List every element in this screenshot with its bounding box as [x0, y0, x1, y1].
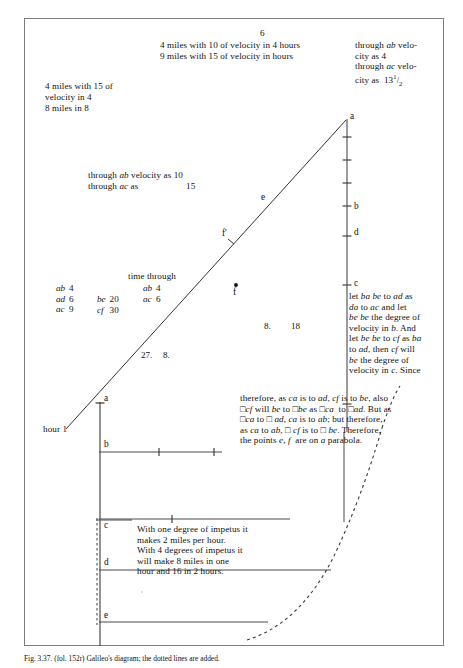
label-f-prime: f': [222, 229, 227, 239]
proof-line: let be be to cf as ba: [349, 333, 461, 344]
proof-line-text: □cf will be to □be as □ca to □ad. But as: [240, 404, 391, 414]
label-d-lower: d: [104, 558, 109, 568]
impetus-line-text: With one degree of impetus it: [137, 524, 248, 534]
number-27: 27.: [141, 350, 152, 361]
impetus-line: makes 2 miles per hour.: [137, 535, 337, 546]
table-row: ac 6: [143, 294, 163, 305]
proof-line-text: velocity in c. Since: [349, 365, 421, 375]
number-18: 18: [291, 321, 300, 332]
top-right-line-3: through ac velo-: [355, 61, 417, 72]
label-a-lower: a: [104, 394, 108, 404]
impetus-line: will make 8 miles in one: [137, 556, 337, 567]
proof-line: let ba be to ad as: [349, 291, 461, 302]
ml2-pre: through: [88, 181, 119, 191]
ml1-it: ab: [119, 170, 128, 180]
top-left-line-1: 4 miles with 15 of: [45, 81, 113, 92]
impetus-line-text: hour and 16 in 2 hours.: [137, 566, 224, 576]
impetus-line: hour and 16 in 2 hours.: [137, 566, 337, 577]
cell-value: 6: [69, 294, 76, 305]
label-c-lower: c: [104, 521, 108, 531]
label-c-right: c: [354, 279, 358, 289]
tr3-it: ac: [386, 61, 395, 71]
mid-left-line-1: through ab velocity as 10: [88, 170, 183, 181]
proof-line: to ad, then cf will: [349, 344, 461, 355]
proof-line-text: therefore, as ca is to ad, cf is to be, …: [240, 393, 388, 403]
table-row: ac 9: [56, 304, 76, 315]
impetus-line-text: With 4 degrees of impetus it: [137, 545, 243, 555]
proof-line: the points e, f are on a parabola.: [240, 435, 463, 446]
proof-line: velocity in b. And: [349, 323, 461, 334]
figure-caption: Fig. 3.37. (fol. 152r) Galileo's diagram…: [24, 654, 220, 663]
cell-value: 4: [69, 283, 76, 294]
top-center-number: 6: [260, 28, 265, 39]
top-center-line-2: 9 miles with 15 of velocity in hours: [160, 51, 293, 62]
ml2-post: as: [128, 181, 138, 191]
proof-line: as ca to ab, □ cf is to □ be. Therefore,: [240, 425, 463, 436]
proof-line-text: let ba be to ad as: [349, 291, 413, 301]
top-right-line-2: city as 4: [355, 51, 386, 62]
ml2-it: ac: [119, 181, 128, 191]
proof-line-text: to ad, then cf will: [349, 344, 415, 354]
table-row: ab 4: [143, 283, 163, 294]
tr4-pre: city as 13: [355, 75, 393, 85]
top-left-line-2: velocity in 4: [45, 92, 92, 103]
cell-key: be: [97, 294, 110, 305]
tr3-pre: through: [355, 61, 386, 71]
proof-line-text: let be be to cf as ba: [349, 333, 421, 343]
impetus-line-text: will make 8 miles in one: [137, 556, 229, 566]
number-8-right: 8.: [264, 321, 271, 332]
label-hour-1: hour 1: [43, 424, 67, 435]
proof-line-text: the points e, f are on a parabola.: [240, 435, 362, 445]
table-left: ab 4 ad 6 ac 9: [56, 283, 76, 315]
cell-key: ab: [56, 283, 69, 294]
label-e-curve: e: [261, 193, 265, 203]
table-row: be 20: [97, 294, 121, 305]
tr3-end: velo-: [395, 61, 417, 71]
proof-line: therefore, as ca is to ad, cf is to be, …: [240, 393, 463, 404]
label-b-lower: b: [104, 440, 109, 450]
cell-value: 4: [156, 283, 163, 294]
proof-line: be be the degree of: [349, 312, 461, 323]
table-right: ab 4 ac 6: [143, 283, 163, 304]
cell-key: ac: [56, 304, 69, 315]
impetus-line-text: makes 2 miles per hour.: [137, 535, 226, 545]
tr4-frac-denominator: 2: [399, 79, 402, 86]
proof-line: da to ac and let: [349, 302, 461, 313]
top-right-line-1: through ab velo-: [355, 40, 417, 51]
ml1-pre: through: [88, 170, 119, 180]
top-right-line-4: city as 131/2: [355, 72, 402, 89]
top-center-line-1: 4 miles with 10 of velocity in 4 hours: [160, 40, 300, 51]
label-a-top: a: [350, 112, 354, 122]
tr-end: velo-: [396, 40, 418, 50]
proof-line-text: velocity in b. And: [349, 323, 416, 333]
proof-line: □ca to □ ad, ca is to ab; but therefore,: [240, 414, 463, 425]
top-left-line-3: 8 miles in 8: [45, 103, 89, 114]
mid-left-line-2-value: 15: [186, 181, 195, 192]
tr-pre: through: [355, 40, 386, 50]
table-row: cf 30: [97, 305, 121, 316]
cell-key: ad: [56, 294, 69, 305]
table-middle: be 20 cf 30: [97, 294, 121, 315]
tr-it: ab: [386, 40, 395, 50]
table-row: ab 4: [56, 283, 76, 294]
cell-value: 30: [110, 305, 121, 316]
label-f-dot: f: [233, 288, 236, 298]
proof-line-text: □ca to □ ad, ca is to ab; but therefore,: [240, 414, 383, 424]
cell-key: ac: [143, 294, 156, 305]
proof-line-text: be be the degree of: [349, 312, 420, 322]
impetus-block: With one degree of impetus it makes 2 mi…: [137, 524, 337, 577]
impetus-line: With one degree of impetus it: [137, 524, 337, 535]
table-row: ad 6: [56, 294, 76, 305]
proof-block-2: therefore, as ca is to ad, cf is to be, …: [240, 393, 463, 446]
cell-value: 20: [110, 294, 121, 305]
cell-key: cf: [97, 305, 110, 316]
label-b-right: b: [354, 202, 359, 212]
cell-value: 6: [156, 294, 163, 305]
label-e-lower: e: [104, 611, 108, 621]
cell-key: ab: [143, 283, 156, 294]
cell-value: 9: [69, 304, 76, 315]
proof-line: be the degree of: [349, 355, 461, 366]
label-d-right: d: [354, 228, 359, 238]
proof-block-1: let ba be to ad as da to ac and let be b…: [349, 291, 461, 376]
ml1-post: velocity as 10: [129, 170, 183, 180]
